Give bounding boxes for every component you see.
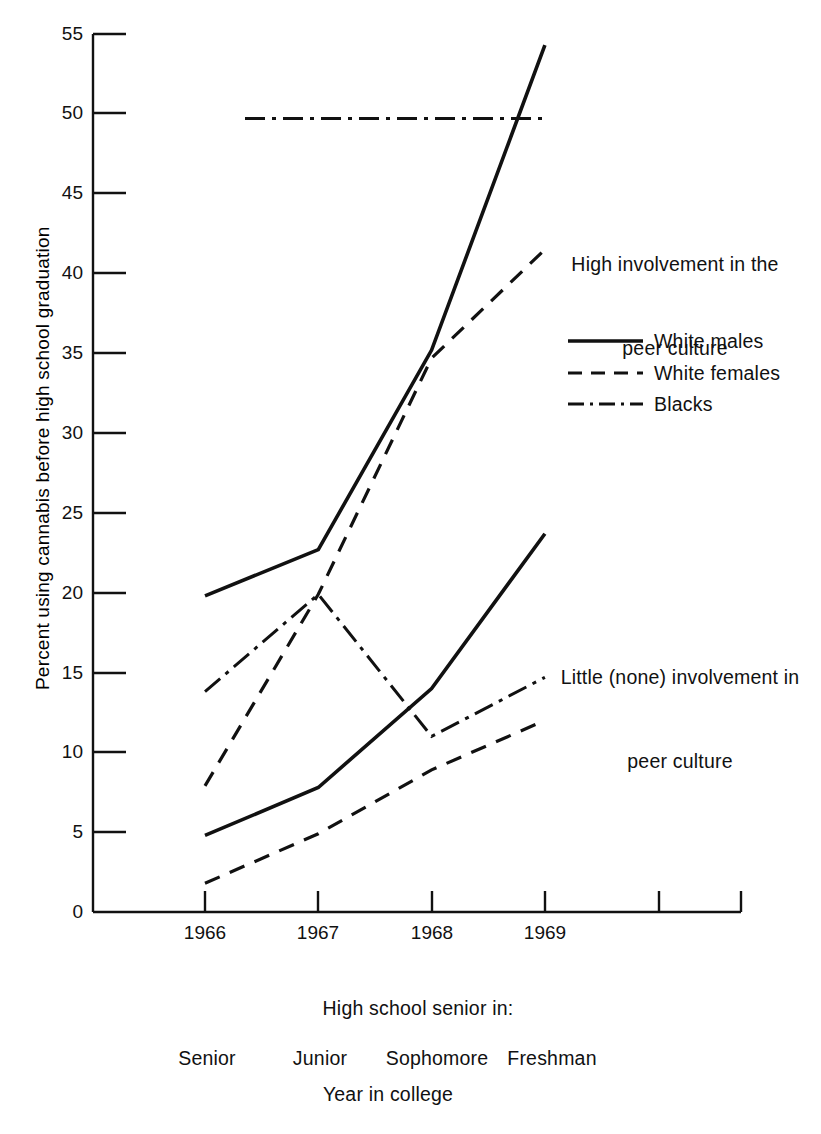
annotation-low-line2: peer culture (540, 747, 820, 775)
y-tick-label-5: 5 (33, 821, 83, 843)
chart-canvas (0, 0, 821, 1134)
annotation-high-line1: High involvement in the (540, 250, 810, 278)
caption-college-year-freshman: Freshman (492, 1047, 612, 1070)
y-axis-title: Percent using cannabis before high schoo… (32, 226, 54, 690)
legend-label-blacks: Blacks (654, 393, 713, 416)
line-low-blacks (205, 594, 545, 736)
y-tick-label-10: 10 (33, 741, 83, 763)
caption-year-in-college: Year in college (168, 1083, 608, 1106)
y-tick-label-15: 15 (33, 662, 83, 684)
y-tick-label-40: 40 (33, 262, 83, 284)
line-low-white-females (205, 720, 545, 883)
y-tick-label-25: 25 (33, 502, 83, 524)
x-tick-label-1966: 1966 (155, 922, 255, 944)
annotation-high-involvement: High involvement in the peer culture (540, 193, 810, 419)
line-high-white-males (205, 45, 545, 596)
y-tick-label-45: 45 (33, 182, 83, 204)
legend-label-white-males: White males (654, 330, 763, 353)
y-tick-label-30: 30 (33, 422, 83, 444)
y-tick-label-0: 0 (33, 901, 83, 923)
y-tick-label-50: 50 (33, 102, 83, 124)
x-tick-label-1968: 1968 (382, 922, 482, 944)
y-tick-label-20: 20 (33, 582, 83, 604)
caption-college-year-junior: Junior (265, 1047, 375, 1070)
y-tick-label-55: 55 (33, 23, 83, 45)
y-tick-label-35: 35 (33, 342, 83, 364)
chart-series-group (205, 45, 545, 883)
caption-high-school-senior: High school senior in: (168, 997, 668, 1020)
annotation-low-line1: Little (none) involvement in (540, 663, 820, 691)
x-tick-label-1967: 1967 (268, 922, 368, 944)
x-tick-label-1969: 1969 (495, 922, 595, 944)
caption-college-year-sophomore: Sophomore (372, 1047, 502, 1070)
annotation-low-involvement: Little (none) involvement in peer cultur… (540, 606, 820, 832)
chart-figure: Percent using cannabis before high schoo… (0, 0, 821, 1134)
caption-college-year-senior: Senior (152, 1047, 262, 1070)
line-high-white-females (205, 250, 545, 786)
line-low-white-males (205, 534, 545, 836)
legend-label-white-females: White females (654, 362, 780, 385)
